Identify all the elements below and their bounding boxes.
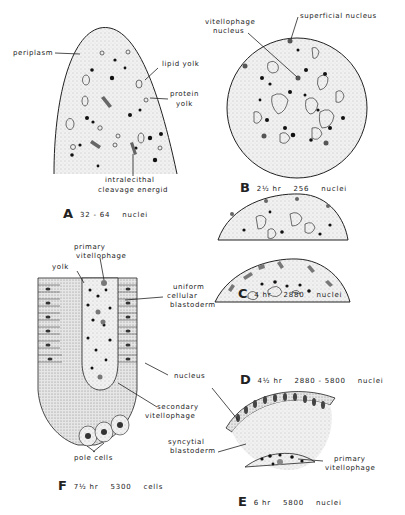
label-lipid-yolk: lipid yolk (162, 60, 199, 69)
caption-d-time: 4½ hr (258, 377, 283, 385)
caption-a-letter: A (63, 206, 74, 221)
label-primary-vitellophage: vitellophage (76, 252, 126, 261)
label-primary-vitellophage: vitellophage (325, 464, 375, 473)
caption-b-time: 2½ hr (257, 185, 282, 193)
caption-b-count: 256 (294, 185, 310, 193)
caption-c-count: 2880 (284, 291, 305, 299)
label-syncytial: syncytial (168, 438, 205, 447)
caption-a: A32 - 64nuclei (63, 206, 148, 221)
label-pole-cells: pole cells (74, 454, 113, 463)
caption-f-time: 7½ hr (74, 483, 99, 491)
caption-a-count: 32 - 64 (80, 211, 110, 219)
caption-d: D4½ hr2880 - 5800nuclei (240, 372, 384, 387)
caption-b-letter: B (240, 180, 251, 195)
label-vitellophage-nucleus: nucleus (213, 27, 244, 36)
caption-c-letter: C (238, 286, 248, 301)
caption-e-letter: E (238, 494, 248, 509)
label-secondary: secondary (157, 403, 199, 412)
caption-c: C4 hr2880nuclei (238, 286, 342, 301)
caption-f: F7½ hr5300cells (58, 478, 163, 493)
label-primary: primary (334, 455, 366, 464)
label-protein-yolk: yolk (176, 100, 193, 109)
caption-b: B2½ hr256nuclei (240, 180, 347, 195)
caption-f-unit: cells (143, 483, 163, 491)
panel-b-cross-section (227, 17, 367, 178)
label-primary: primary (74, 243, 106, 252)
panel-e-section (212, 388, 335, 470)
label-protein: protein (170, 90, 199, 99)
label-yolk: yolk (52, 263, 69, 272)
label-superficial-nucleus: superficial nucleus (300, 12, 377, 21)
panel-c-section (218, 194, 348, 240)
label-cleavage-energid: cleavage energid (98, 186, 168, 195)
label-intralecithal: intralecithal (105, 176, 155, 185)
caption-c-unit: nuclei (317, 291, 343, 299)
caption-e-count: 5800 (283, 499, 304, 507)
label-blastoderm: blastoderm (170, 301, 216, 310)
label-cellular: cellular (167, 292, 197, 301)
caption-f-count: 5300 (110, 483, 131, 491)
caption-f-letter: F (58, 478, 68, 493)
label-uniform: uniform (173, 283, 204, 292)
label-secondary-vitellophage: vitellophage (145, 412, 195, 421)
caption-d-letter: D (240, 372, 252, 387)
label-vitellophage: vitellophage (205, 18, 255, 27)
label-syncytial-blastoderm: blastoderm (170, 447, 216, 456)
caption-b-unit: nuclei (321, 185, 347, 193)
caption-c-time: 4 hr (254, 291, 271, 299)
label-nucleus: nucleus (174, 372, 205, 381)
caption-e-unit: nuclei (316, 499, 342, 507)
caption-d-count: 2880 - 5800 (294, 377, 345, 385)
label-periplasm: periplasm (13, 49, 53, 58)
caption-e: E6 hr5800nuclei (238, 494, 342, 509)
caption-d-unit: nuclei (358, 377, 384, 385)
caption-a-unit: nuclei (122, 211, 148, 219)
caption-e-time: 6 hr (254, 499, 271, 507)
panel-f-section (38, 258, 168, 452)
panel-a-embryo-tip (54, 28, 177, 176)
